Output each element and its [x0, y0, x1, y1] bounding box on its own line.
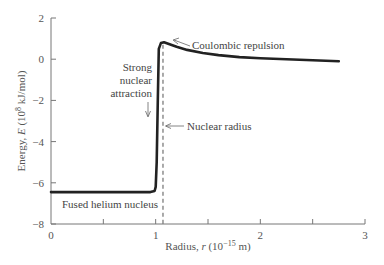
annotation-nuclear-radius: Nuclear radius	[166, 120, 252, 132]
annotation-fused-helium: Fused helium nucleus	[62, 198, 158, 210]
annotation-strong-line1: Strong	[123, 61, 153, 73]
x-axis-title: Radius, r (10−15 m)	[165, 239, 251, 253]
x-tick-label: 1	[153, 229, 159, 241]
x-tick-label: 0	[48, 229, 54, 241]
y-axis-title: Energy, E (108 kJ/mol)	[14, 70, 28, 171]
x-tick-label: 2	[258, 229, 264, 241]
y-tick-label: −2	[32, 94, 44, 106]
y-tick-label: −8	[32, 218, 44, 230]
chart: 20−2−4−6−8 0123 Coulombic repulsion Stro…	[0, 0, 384, 265]
annotation-strong-line3: attraction	[110, 87, 152, 99]
y-tick-label: −6	[32, 177, 44, 189]
energy-curve	[51, 42, 339, 192]
x-ticks: 0123	[48, 219, 368, 241]
y-tick-label: 0	[39, 53, 45, 65]
y-ticks: 20−2−4−6−8	[32, 12, 56, 230]
annotation-coulombic: Coulombic repulsion	[173, 38, 285, 51]
x-tick-label: 3	[362, 229, 368, 241]
annotation-strong-nuclear: Strong nuclear attraction	[110, 61, 152, 117]
annotation-coulombic-text: Coulombic repulsion	[192, 39, 285, 51]
y-tick-label: −4	[32, 136, 44, 148]
annotation-nuclear-radius-text: Nuclear radius	[187, 120, 251, 132]
y-tick-label: 2	[39, 12, 45, 24]
annotation-strong-line2: nuclear	[120, 74, 153, 86]
